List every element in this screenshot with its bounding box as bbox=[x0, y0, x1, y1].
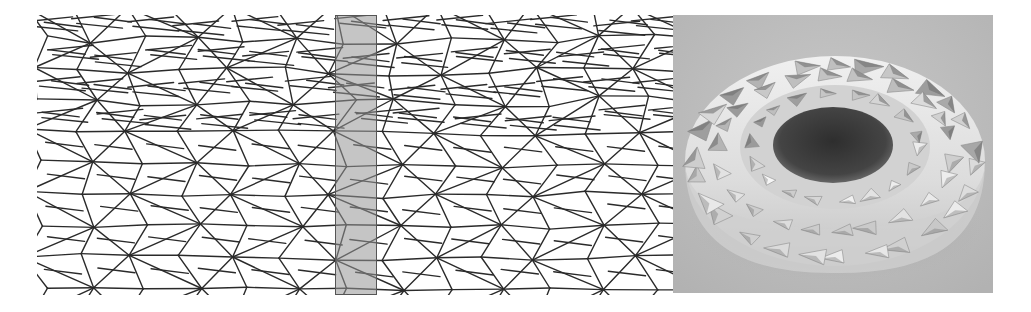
crease-pattern-panel bbox=[37, 15, 673, 295]
crease-pattern-drawing bbox=[37, 15, 673, 295]
folded-torus-photo bbox=[673, 15, 993, 293]
torus-render bbox=[673, 15, 993, 293]
